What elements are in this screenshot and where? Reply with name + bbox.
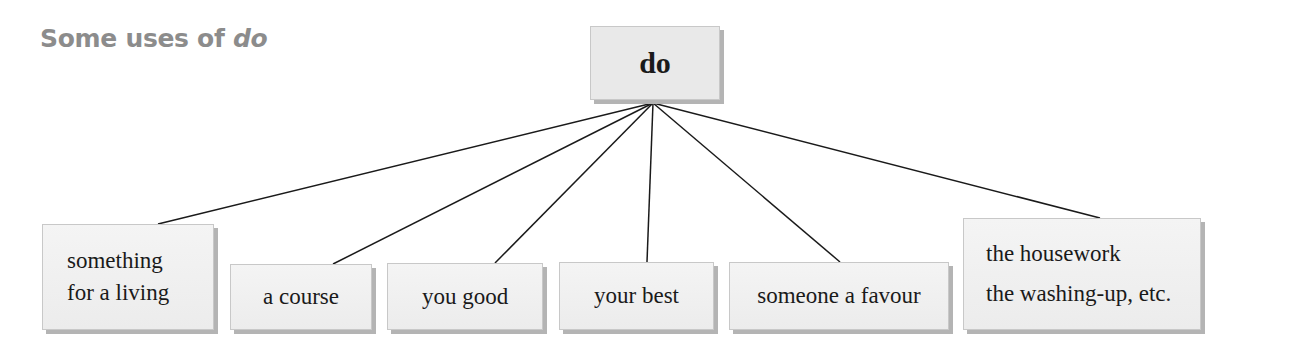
branch-node-someone-a-favour: someone a favour xyxy=(729,262,949,330)
branch-text: someone a favour xyxy=(757,280,921,312)
root-node: do xyxy=(590,26,720,100)
branch-node-housework: the housework the washing-up, etc. xyxy=(963,218,1201,330)
branch-text: for a living xyxy=(67,277,213,309)
root-label: do xyxy=(639,47,671,79)
branch-text: a course xyxy=(263,281,339,313)
connector-line xyxy=(333,103,653,264)
branch-node-something-for-a-living: something for a living xyxy=(42,224,214,330)
branch-node-you-good: you good xyxy=(387,263,543,330)
connector-line xyxy=(495,103,653,263)
branch-text: your best xyxy=(594,280,679,312)
connector-line xyxy=(647,103,653,262)
connector-line xyxy=(158,103,653,224)
branch-text: the washing-up, etc. xyxy=(986,274,1200,314)
branch-text: something xyxy=(67,245,213,277)
branch-node-a-course: a course xyxy=(230,264,372,330)
branch-node-your-best: your best xyxy=(559,262,714,330)
branch-text: you good xyxy=(422,281,508,313)
branch-text: the housework xyxy=(986,234,1200,274)
